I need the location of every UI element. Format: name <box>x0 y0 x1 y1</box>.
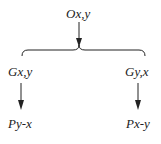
node-p-x-minus-y: Px-y <box>126 117 150 131</box>
arrow-down-icon <box>18 83 24 110</box>
node-p-y-minus-x: Py-x <box>8 117 32 131</box>
node-g-xy: Gx,y <box>8 65 32 79</box>
arrow-down-icon <box>135 83 141 110</box>
node-g-yx: Gy,x <box>125 65 148 79</box>
curly-brace <box>22 45 145 56</box>
arrow-down-icon <box>76 22 82 47</box>
